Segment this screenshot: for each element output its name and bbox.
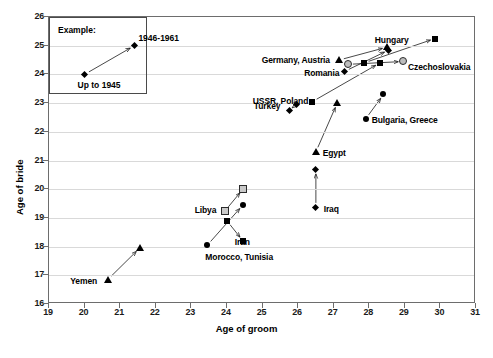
trend-arrow-libya	[228, 193, 239, 207]
x-axis-tick-label: 26	[282, 307, 312, 317]
data-point-hungary-start	[361, 60, 367, 66]
y-axis-tick-mark	[43, 217, 48, 218]
data-point-ussr-poland-end	[377, 60, 383, 66]
trend-arrow-germany-austria	[344, 48, 382, 58]
gridline-horizontal	[49, 161, 474, 162]
example-label-start: Up to 1945	[78, 80, 121, 90]
data-point-morocco-tunisia-end	[240, 202, 246, 208]
y-axis-tick-label: 21	[0, 155, 44, 165]
x-axis-tick-mark	[297, 303, 298, 308]
trend-arrow-iran	[230, 225, 240, 237]
y-axis-tick-mark	[43, 45, 48, 46]
data-point-bulgaria-greece-end	[380, 91, 386, 97]
x-axis-tick-label: 31	[460, 307, 490, 317]
example-label-end: 1946-1961	[138, 33, 179, 43]
series-label-iran: Iran	[235, 237, 250, 247]
series-label-yemen: Yemen	[70, 276, 97, 286]
y-axis-tick-mark	[43, 188, 48, 189]
data-point-romania-end	[385, 46, 392, 53]
x-axis-tick-label: 29	[389, 307, 419, 317]
x-axis-tick-label: 20	[69, 307, 99, 317]
x-axis-tick-label: 23	[175, 307, 205, 317]
data-point-germany-austria-start	[335, 56, 343, 63]
y-axis-tick-label: 23	[0, 97, 44, 107]
data-point-iraq-start	[312, 204, 319, 211]
trend-arrow-egypt	[318, 108, 335, 148]
data-point-iran-start	[224, 218, 230, 224]
data-point-egypt-start	[312, 148, 320, 155]
data-point-yemen-end	[136, 244, 144, 251]
y-axis-tick-label: 18	[0, 241, 44, 251]
data-point-libya-start	[221, 207, 229, 215]
x-axis-tick-mark	[262, 303, 263, 308]
y-axis-tick-mark	[43, 16, 48, 17]
y-axis-tick-mark	[43, 131, 48, 132]
trend-arrow-turkey	[292, 107, 293, 108]
x-axis-tick-label: 19	[33, 307, 63, 317]
data-point-egypt-end	[333, 99, 341, 106]
data-point-bulgaria-greece-start	[363, 116, 369, 122]
x-axis-tick-mark	[475, 303, 476, 308]
trend-arrow-bulgaria-greece	[369, 99, 381, 115]
series-label-morocco-tunisia: Morocco, Tunisia	[205, 252, 273, 262]
gridline-horizontal	[49, 218, 474, 219]
data-point-czechoslovakia-end	[399, 57, 407, 65]
series-label-germany-austria: Germany, Austria	[262, 55, 330, 65]
x-axis-tick-mark	[190, 303, 191, 308]
series-label-libya: Libya	[195, 205, 217, 215]
x-axis-tick-mark	[226, 303, 227, 308]
example-box-title: Example:	[58, 25, 96, 35]
series-label-bulgaria-greece: Bulgaria, Greece	[372, 115, 438, 125]
y-axis-tick-label: 17	[0, 269, 44, 279]
data-point-czechoslovakia-start	[344, 60, 352, 68]
data-point-yemen-start	[104, 276, 112, 283]
data-point-iraq-end	[312, 166, 319, 173]
plot-area: YemenMorocco, TunisiaLibyaIranIraqEgyptT…	[48, 16, 475, 303]
series-label-hungary: Hungary	[375, 35, 409, 45]
y-axis-tick-label: 19	[0, 212, 44, 222]
x-axis-tick-mark	[333, 303, 334, 308]
x-axis-tick-mark	[48, 303, 49, 308]
x-axis-tick-label: 22	[140, 307, 170, 317]
x-axis-tick-mark	[439, 303, 440, 308]
trend-arrow-czechoslovakia	[353, 62, 398, 64]
x-axis-tick-label: 28	[353, 307, 383, 317]
y-axis-tick-mark	[43, 246, 48, 247]
x-axis-tick-mark	[119, 303, 120, 308]
gridline-horizontal	[49, 189, 474, 190]
x-axis-title: Age of groom	[0, 323, 493, 334]
x-axis-tick-label: 24	[211, 307, 241, 317]
x-axis-tick-label: 25	[247, 307, 277, 317]
gridline-horizontal	[49, 132, 474, 133]
y-axis-tick-label: 25	[0, 40, 44, 50]
series-label-romania: Romania	[304, 68, 339, 78]
x-axis-tick-label: 27	[318, 307, 348, 317]
y-axis-tick-mark	[43, 73, 48, 74]
y-axis-tick-label: 22	[0, 126, 44, 136]
y-axis-tick-mark	[43, 274, 48, 275]
gridline-horizontal	[49, 275, 474, 276]
data-point-turkey-start	[286, 107, 293, 114]
x-axis-tick-mark	[84, 303, 85, 308]
series-label-iraq: Iraq	[324, 204, 339, 214]
series-label-egypt: Egypt	[323, 148, 346, 158]
y-axis-tick-label: 20	[0, 183, 44, 193]
series-label-czechoslovakia: Czechoslovakia	[408, 62, 470, 72]
data-point-libya-end	[239, 185, 247, 193]
y-axis-tick-label: 26	[0, 11, 44, 21]
scatter-chart: YemenMorocco, TunisiaLibyaIranIraqEgyptT…	[0, 0, 493, 358]
trend-arrow-yemen	[111, 252, 136, 277]
data-point-ussr-poland-start	[309, 99, 315, 105]
y-axis-tick-mark	[43, 160, 48, 161]
x-axis-tick-mark	[404, 303, 405, 308]
x-axis-tick-mark	[368, 303, 369, 308]
gridline-horizontal	[49, 247, 474, 248]
series-label-ussr-poland: USSR, Poland	[253, 96, 308, 106]
data-point-hungary-end	[432, 36, 438, 42]
y-axis-tick-mark	[43, 102, 48, 103]
x-axis-tick-label: 21	[104, 307, 134, 317]
y-axis-tick-label: 24	[0, 68, 44, 78]
x-axis-tick-label: 30	[424, 307, 454, 317]
x-axis-tick-mark	[155, 303, 156, 308]
